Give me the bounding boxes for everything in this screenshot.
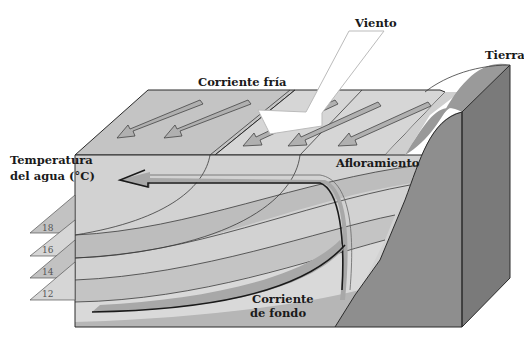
bottom-current-label-line1: Corriente xyxy=(252,292,314,306)
water-temp-label-line2: del agua (°C) xyxy=(10,169,95,183)
upwelling-label: Afloramiento xyxy=(335,156,420,170)
upwelling-diagram: 18 16 14 12 Viento Tierra Corriente fría… xyxy=(0,0,524,339)
water-temp-label-line1: Temperatura xyxy=(10,153,93,167)
land-side xyxy=(462,65,510,327)
temp-label-12: 12 xyxy=(42,289,53,299)
temp-label-14: 14 xyxy=(42,267,54,277)
land-label: Tierra xyxy=(485,48,524,62)
temp-label-18: 18 xyxy=(42,223,54,233)
cold-current-label: Corriente fría xyxy=(198,75,287,89)
bottom-current-label-line2: de fondo xyxy=(250,306,306,320)
temperature-tabs: 18 16 14 12 xyxy=(30,195,75,300)
wind-label: Viento xyxy=(354,16,397,30)
temp-label-16: 16 xyxy=(42,245,54,255)
